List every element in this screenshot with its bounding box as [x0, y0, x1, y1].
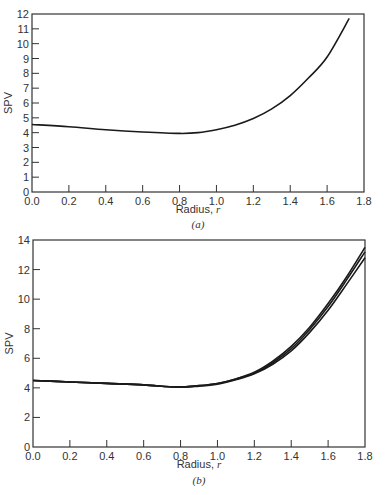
x-tick-label: 1.6 [319, 195, 334, 207]
y-tick-label: 3 [23, 142, 29, 154]
chart-panel-a: 01234567891011120.00.20.40.60.81.01.21.4… [2, 8, 372, 231]
x-axis-label: Radius, r [176, 203, 221, 215]
y-tick-label: 4 [23, 127, 29, 139]
y-tick-label: 8 [23, 67, 29, 79]
x-tick-label: 0.0 [25, 450, 40, 462]
y-tick-label: 11 [18, 23, 29, 35]
y-tick-label: 6 [23, 97, 29, 109]
plot-frame [32, 14, 364, 192]
x-tick-label: 1.2 [246, 195, 261, 207]
y-tick-label: 4 [24, 382, 30, 394]
x-tick-label: 0.0 [24, 195, 39, 207]
y-tick-label: 10 [17, 38, 29, 50]
x-tick-label: 0.4 [99, 450, 114, 462]
x-tick-label: 0.2 [61, 195, 76, 207]
y-tick-label: 14 [18, 234, 30, 246]
y-tick-label: 5 [23, 112, 29, 124]
x-tick-label: 1.8 [356, 195, 371, 207]
series-line-curve-1 [33, 247, 365, 387]
x-tick-label: 1.4 [284, 450, 299, 462]
panel-label: (a) [192, 218, 205, 231]
figure-canvas: 01234567891011120.00.20.40.60.81.01.21.4… [0, 0, 385, 495]
plot-frame [33, 240, 365, 447]
x-tick-label: 1.6 [320, 450, 335, 462]
panel-label: (b) [193, 474, 206, 487]
chart-panel-b: 024681012140.00.20.40.60.81.01.21.41.61.… [3, 234, 373, 487]
y-tick-label: 2 [24, 411, 30, 423]
y-tick-label: 7 [23, 82, 29, 94]
y-tick-label: 9 [23, 53, 29, 65]
y-tick-label: 12 [17, 8, 29, 20]
x-tick-label: 0.2 [62, 450, 77, 462]
y-axis-label: SPV [2, 91, 14, 114]
y-tick-label: 8 [24, 323, 30, 335]
y-tick-label: 10 [18, 293, 30, 305]
y-axis-label: SPV [3, 332, 15, 355]
y-tick-label: 1 [23, 171, 29, 183]
series-line-SPV [32, 18, 349, 133]
x-tick-label: 1.2 [247, 450, 262, 462]
x-tick-label: 1.8 [357, 450, 372, 462]
y-tick-label: 12 [18, 264, 30, 276]
x-tick-label: 0.4 [98, 195, 113, 207]
y-tick-label: 2 [23, 156, 29, 168]
x-tick-label: 0.6 [135, 195, 150, 207]
y-tick-label: 6 [24, 352, 30, 364]
x-tick-label: 0.6 [136, 450, 151, 462]
x-tick-label: 1.4 [283, 195, 298, 207]
x-axis-label: Radius, r [177, 458, 222, 470]
